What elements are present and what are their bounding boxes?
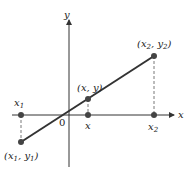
label-p2: (x2, y2): [137, 38, 172, 51]
line-segment-diagram: x y 0 x1 x x2 (x1, y1) (x, y) (x2, y2): [0, 0, 191, 176]
point-x2-on-axis: [151, 112, 157, 118]
point-p1: [18, 139, 24, 145]
y-axis-label: y: [63, 9, 70, 20]
label-x: x: [85, 120, 91, 131]
label-p1: (x1, y1): [4, 150, 39, 163]
point-x1-on-axis: [18, 112, 24, 118]
point-p2: [151, 53, 157, 59]
x-axis-label: x: [178, 109, 184, 120]
point-x-on-axis: [85, 112, 91, 118]
origin-label: 0: [59, 117, 65, 128]
label-x1: x1: [14, 97, 24, 110]
label-x2: x2: [148, 121, 159, 134]
point-p: [85, 96, 91, 102]
label-p: (x, y): [77, 82, 103, 93]
